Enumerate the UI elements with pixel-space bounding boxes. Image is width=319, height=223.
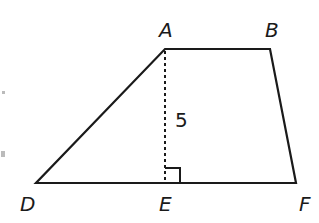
vertex-label-b: B [265,20,279,40]
vertex-label-e: E [159,194,172,214]
vertex-label-a: A [159,20,173,40]
right-angle-marker [165,168,180,183]
vertex-label-f: F [299,194,311,214]
vertex-label-d: D [20,194,35,214]
cropped-text-fragment [2,91,5,94]
height-length-label: 5 [175,110,188,130]
cropped-text-fragment [1,151,5,157]
trapezoid-diagram: A B D E F 5 [0,0,319,223]
